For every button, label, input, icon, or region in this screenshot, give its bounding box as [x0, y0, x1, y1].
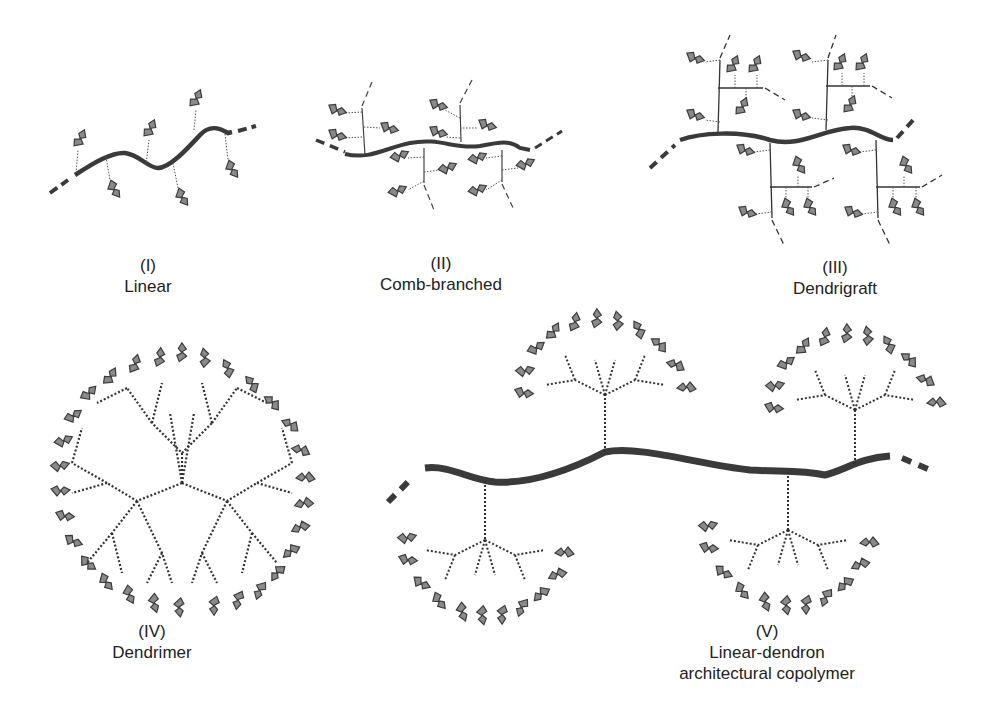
label-numeral: (II): [380, 253, 502, 274]
dendron-bottom-left: [397, 531, 574, 625]
label-name-line2: architectural copolymer: [679, 663, 855, 684]
polymer-architecture-diagram: [0, 0, 987, 728]
dendron-bottom-right: [698, 519, 879, 615]
linear-dendron-copolymer: [388, 308, 946, 625]
label-name: Linear: [124, 276, 171, 297]
dendrigraft-polymer: [650, 35, 942, 245]
dendrimer: [50, 342, 315, 617]
label-numeral: (IV): [112, 621, 191, 642]
label-name: Dendrimer: [112, 642, 191, 663]
linear-polymer: [50, 88, 256, 208]
dendron-top-right: [764, 323, 946, 414]
label-numeral: (III): [793, 257, 877, 278]
label-numeral: (I): [124, 255, 171, 276]
label-linear-dendron: (V) Linear-dendron architectural copolym…: [679, 621, 855, 684]
label-comb-branched: (II) Comb-branched: [380, 253, 502, 295]
label-dendrimer: (IV) Dendrimer: [112, 621, 191, 663]
label-dendrigraft: (III) Dendrigraft: [793, 257, 877, 299]
comb-branched-polymer: [316, 80, 562, 210]
dendron-top-left: [514, 308, 696, 399]
label-linear: (I) Linear: [124, 255, 171, 297]
label-name: Linear-dendron: [679, 642, 855, 663]
label-numeral: (V): [679, 621, 855, 642]
label-name: Comb-branched: [380, 274, 502, 295]
label-name: Dendrigraft: [793, 278, 877, 299]
